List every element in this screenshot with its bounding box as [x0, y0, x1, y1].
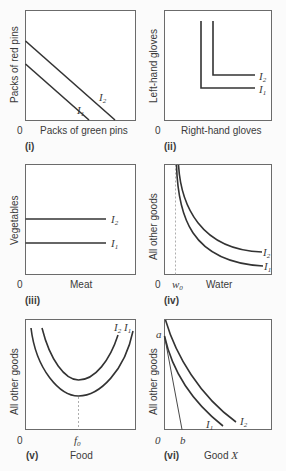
x-mark-b: b [180, 434, 186, 446]
x-axis-label: Right-hand gloves [181, 125, 262, 136]
y-axis-label: All other goods [148, 348, 159, 415]
panel-i: I1 I2 0 Packs of green pins Packs of red… [9, 11, 136, 153]
origin-label: 0 [17, 435, 23, 446]
origin-label: 0 [17, 125, 23, 136]
panel-v: I2 I1 0 f0 Food All other goods (v) [9, 320, 136, 462]
panel-ii: I2 I1 0 Right-hand gloves Left-hand glov… [148, 11, 272, 153]
origin-label: 0 [155, 125, 161, 136]
panel-label: (iii) [25, 295, 40, 306]
origin-label: 0 [17, 279, 23, 290]
panel-vi: I1 I2 a 0 b Good X All other goods (vi) [148, 320, 272, 462]
y-axis-label: Vegetables [9, 196, 20, 246]
x-axis-label: Food [70, 450, 93, 461]
y-axis-label: Left-hand gloves [148, 29, 159, 103]
x-axis-label: Good X [204, 449, 239, 461]
origin-label: 0 [155, 279, 161, 290]
panel-label: (iv) [164, 295, 179, 306]
panel-iii: I2 I1 0 Meat Vegetables (iii) [9, 165, 136, 307]
plot-frame [165, 11, 272, 121]
x-axis-label: Meat [70, 279, 92, 290]
x-axis-label: Packs of green pins [40, 125, 128, 136]
y-mark-a: a [156, 328, 162, 340]
y-axis-label: All other goods [148, 193, 159, 260]
origin-label: 0 [155, 434, 161, 446]
plot-frame [165, 320, 272, 430]
panel-label: (i) [25, 141, 34, 152]
x-axis-label: Water [206, 279, 233, 290]
x-mark-w0: w0 [172, 278, 183, 292]
y-axis-label: Packs of red pins [9, 26, 20, 103]
panel-label: (ii) [164, 141, 176, 152]
panel-iv: I2 I1 0 w0 Water All other goods (iv) [148, 165, 272, 307]
y-axis-label: All other goods [9, 348, 20, 415]
indifference-curve-figure: I1 I2 0 Packs of green pins Packs of red… [0, 0, 286, 471]
panel-label: (vi) [164, 450, 179, 461]
panel-label: (v) [26, 450, 38, 461]
x-mark-f0: f0 [74, 434, 81, 448]
plot-frame [26, 320, 136, 430]
